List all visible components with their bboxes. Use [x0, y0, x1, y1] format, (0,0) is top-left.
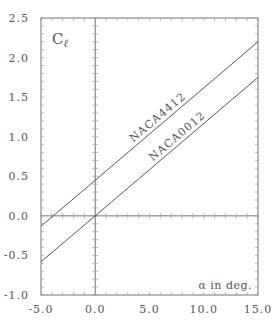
- x-tick-label: -5.0: [28, 303, 53, 316]
- x-tick-label: 0.0: [85, 303, 106, 316]
- y-tick-label: 2.5: [9, 12, 30, 25]
- y-tick-label: 2.0: [9, 52, 30, 65]
- axis-tick-labels: -5.00.05.010.015.0-1.0-0.50.00.51.01.52.…: [4, 12, 272, 316]
- x-tick-label: 5.0: [139, 303, 160, 316]
- y-tick-label: -0.5: [4, 249, 29, 262]
- y-tick-label: 0.0: [9, 210, 30, 223]
- series-line-naca0012: [41, 77, 258, 261]
- x-tick-label: 15.0: [244, 303, 272, 316]
- x-axis-label: α in deg.: [198, 279, 252, 292]
- y-tick-label: 1.0: [9, 131, 30, 144]
- y-tick-label: 1.5: [9, 91, 30, 104]
- lift-coefficient-chart: -5.00.05.010.015.0-1.0-0.50.00.51.01.52.…: [0, 0, 272, 327]
- x-tick-label: 10.0: [190, 303, 219, 316]
- series-annotations: NACA4412NACA0012: [127, 90, 208, 164]
- y-tick-label: 0.5: [9, 170, 30, 183]
- series-line-naca4412: [41, 42, 258, 226]
- y-axis-label: Cℓ: [52, 30, 68, 50]
- y-tick-label: -1.0: [4, 289, 29, 302]
